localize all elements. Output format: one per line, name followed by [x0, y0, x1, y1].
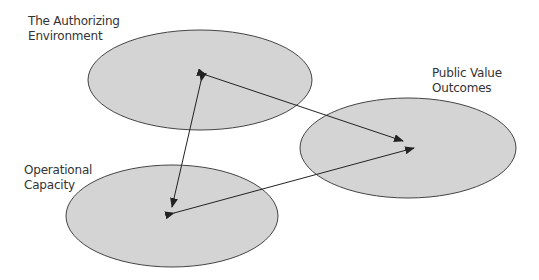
label-operational-capacity: Operational Capacity [24, 163, 92, 193]
label-authorizing-environment: The Authorizing Environment [28, 14, 120, 44]
label-public-value-outcomes: Public Value Outcomes [432, 66, 502, 96]
label-line: Capacity [24, 178, 92, 193]
ellipse-operational-capacity [66, 165, 278, 267]
label-line: Operational [24, 163, 92, 178]
label-line: The Authorizing [28, 14, 120, 29]
ellipse-public-value-outcomes [300, 98, 516, 198]
ellipse-authorizing-environment [88, 30, 312, 130]
label-line: Outcomes [432, 81, 502, 96]
label-line: Public Value [432, 66, 502, 81]
label-line: Environment [28, 29, 120, 44]
